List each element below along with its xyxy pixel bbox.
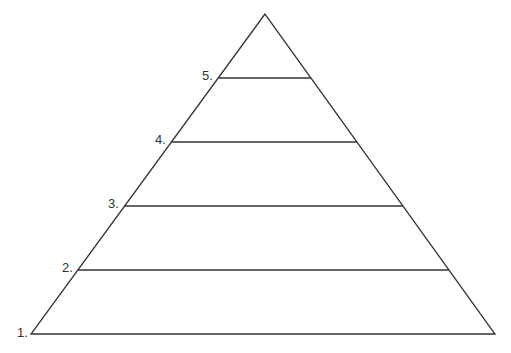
level-1-label: 1. (17, 326, 28, 339)
pyramid-outline (31, 14, 495, 334)
level-2-label: 2. (62, 261, 73, 274)
level-3-label: 3. (108, 197, 119, 210)
pyramid-diagram: 1. 2. 3. 4. 5. (0, 0, 511, 353)
pyramid-shape (0, 0, 511, 353)
level-4-label: 4. (155, 133, 166, 146)
level-5-label: 5. (202, 69, 213, 82)
